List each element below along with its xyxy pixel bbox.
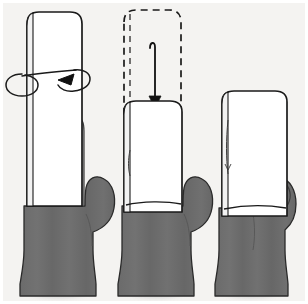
panel-2-region [104, 0, 204, 304]
panel-1-region [0, 0, 104, 304]
panel-3-region [204, 0, 308, 304]
illustration-scene [0, 0, 308, 304]
